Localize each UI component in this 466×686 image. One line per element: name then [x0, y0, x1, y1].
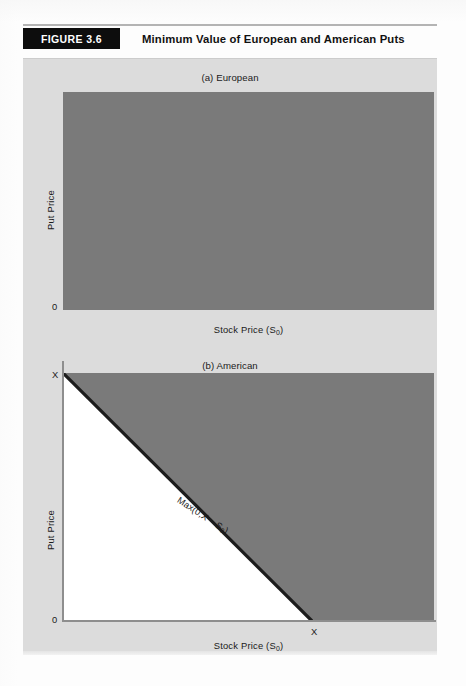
chart-american-shaded-region [63, 373, 434, 621]
chart-american-title: (b) American [23, 360, 437, 371]
figure-number-badge: FIGURE 3.6 [23, 28, 120, 49]
chart-american-y-axis-label: Put Price [45, 510, 56, 550]
chart-european-title: (a) European [23, 72, 437, 83]
chart-american-x-axis-label-main: Stock Price (S [214, 640, 276, 651]
chart-american-x-tick-strike: X [311, 626, 317, 637]
chart-american: (b) American Max(0,X − S0) Put Price X 0… [23, 354, 437, 654]
chart-american-y-tick-strike: X [52, 369, 58, 380]
figure-panel: (a) European Put Price 0 Stock Price (S0… [23, 58, 437, 655]
chart-american-y-axis-line [62, 361, 64, 621]
figure-title: Minimum Value of European and American P… [142, 28, 405, 49]
chart-american-x-axis-label: Stock Price (S0) [63, 640, 434, 652]
chart-european-y-axis-label: Put Price [45, 190, 56, 230]
chart-american-y-tick-zero: 0 [52, 614, 57, 625]
chart-european-x-axis-label-close: ) [280, 324, 283, 335]
chart-european: (a) European Put Price 0 Stock Price (S0… [23, 58, 437, 343]
chart-european-y-tick-zero: 0 [52, 301, 57, 312]
chart-european-x-axis-label: Stock Price (S0) [63, 324, 434, 336]
chart-american-plot-area: Max(0,X − S0) [63, 373, 434, 621]
chart-american-x-axis-line [62, 620, 436, 622]
chart-european-plot-area [63, 92, 434, 310]
header-divider-rule [23, 24, 437, 26]
chart-european-x-axis-label-main: Stock Price (S [214, 324, 276, 335]
chart-american-x-axis-label-close: ) [280, 640, 283, 651]
